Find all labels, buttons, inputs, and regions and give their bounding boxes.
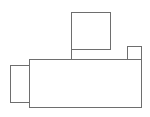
diagram-canvas — [0, 0, 150, 117]
top-right-block-rect — [127, 46, 142, 60]
left-block-rect — [10, 65, 30, 103]
top-block-rect — [71, 12, 111, 50]
top-block-stem-line — [71, 49, 72, 60]
main-body-rect — [29, 59, 142, 108]
